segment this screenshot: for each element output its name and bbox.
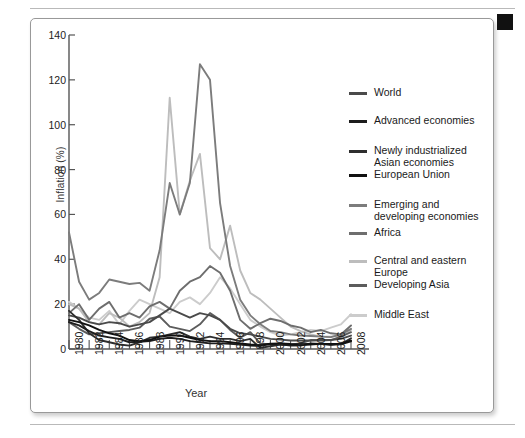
legend-label: Newly industrialized Asian economies xyxy=(374,145,467,168)
top-divider xyxy=(30,8,515,9)
x-tick-label: 1980 xyxy=(73,332,85,355)
legend-label: Advanced economies xyxy=(374,115,474,127)
x-tick-label: 2002 xyxy=(295,332,307,355)
legend-item[interactable]: Advanced economies xyxy=(349,115,474,127)
legend-label: Africa xyxy=(374,227,401,239)
legend-color-swatch xyxy=(349,232,367,235)
legend-color-swatch xyxy=(349,150,367,153)
bottom-divider xyxy=(30,424,515,425)
x-tick-label: 1982 xyxy=(93,332,105,355)
x-tick-label: 2008 xyxy=(355,332,367,355)
legend-item[interactable]: Emerging and developing economies xyxy=(349,199,479,222)
x-tick-label: 1984 xyxy=(113,332,125,355)
x-tick-label: 1986 xyxy=(133,332,145,355)
x-tick-label: 2000 xyxy=(274,332,286,355)
legend-color-swatch xyxy=(349,120,367,123)
x-tick-label: 2006 xyxy=(335,332,347,355)
legend-color-swatch xyxy=(349,314,367,317)
legend-color-swatch xyxy=(349,92,367,95)
x-tick-label: 1998 xyxy=(254,332,266,355)
legend-color-swatch xyxy=(349,284,367,287)
legend-item[interactable]: Africa xyxy=(349,227,401,239)
legend-label: Middle East xyxy=(374,309,429,321)
legend-color-swatch xyxy=(349,204,367,207)
legend-item[interactable]: World xyxy=(349,87,401,99)
legend-item[interactable]: Developing Asia xyxy=(349,279,449,291)
legend-item[interactable]: Newly industrialized Asian economies xyxy=(349,145,467,168)
x-tick-label: 1994 xyxy=(214,332,226,355)
x-tick-label: 2004 xyxy=(315,332,327,355)
legend-item[interactable]: Central and eastern Europe xyxy=(349,255,466,278)
legend-label: Central and eastern Europe xyxy=(374,255,466,278)
legend-item[interactable]: Middle East xyxy=(349,309,429,321)
plot-area: 020406080100120140 198019821984198619881… xyxy=(31,19,495,414)
legend-item[interactable]: European Union xyxy=(349,169,450,181)
x-tick-label: 1996 xyxy=(234,332,246,355)
y-axis-label: Inflation (%) xyxy=(55,120,66,230)
legend-label: Developing Asia xyxy=(374,279,449,291)
x-tick-label: 1992 xyxy=(194,332,206,355)
legend-label: European Union xyxy=(374,169,450,181)
legend-label: Emerging and developing economies xyxy=(374,199,479,222)
black-square-marker xyxy=(497,14,513,30)
legend-color-swatch xyxy=(349,260,367,263)
figure-page: 020406080100120140 198019821984198619881… xyxy=(0,0,525,438)
figure-frame: 020406080100120140 198019821984198619881… xyxy=(30,18,494,413)
legend-color-swatch xyxy=(349,174,367,177)
x-axis-label: Year xyxy=(31,387,361,399)
x-tick-label: 1990 xyxy=(174,332,186,355)
x-tick-label: 1988 xyxy=(154,332,166,355)
legend-label: World xyxy=(374,87,401,99)
